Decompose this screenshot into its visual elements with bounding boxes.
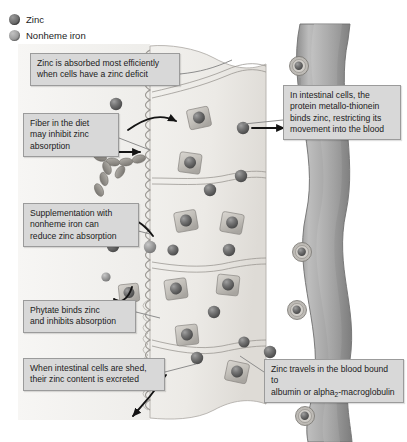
intestinal-epithelial-cells (150, 46, 266, 420)
callout-blood-transport: Zinc travels in the blood bound to album… (264, 359, 404, 403)
iron-sphere-icon (9, 30, 20, 41)
callout-cell-shedding: When intestinal cells are shed, their zi… (23, 358, 165, 391)
legend: Zinc Nonheme iron (9, 12, 86, 44)
legend-label-zinc: Zinc (26, 14, 44, 25)
legend-label-nonheme-iron: Nonheme iron (26, 30, 86, 41)
callout-metallothionein: In intestinal cells, the protein metallo… (283, 85, 401, 140)
zinc-absorption-diagram: Zinc Nonheme iron Zinc is absorbed most … (0, 0, 407, 442)
callout-zinc-deficit: Zinc is absorbed most efficiently when c… (30, 53, 180, 86)
callout-fiber-text: Fiber in the diet may inhibit zinc absor… (30, 118, 112, 152)
callout-phytate-text: Phytate binds zinc and inhibits absorpti… (30, 305, 129, 328)
callout-zinc-deficit-text: Zinc is absorbed most efficiently when c… (37, 58, 173, 81)
transport-text-post: -macroglobulin (338, 387, 394, 397)
callout-nonheme-iron-text: Supplementation with nonheme iron can re… (30, 208, 132, 242)
transport-subscript: 2 (335, 391, 339, 398)
callout-nonheme-iron: Supplementation with nonheme iron can re… (23, 203, 139, 247)
callout-cell-shedding-text: When intestinal cells are shed, their zi… (30, 363, 158, 386)
legend-item-nonheme-iron: Nonheme iron (9, 28, 86, 43)
zinc-sphere-icon (9, 14, 20, 25)
callout-metallothionein-text: In intestinal cells, the protein metallo… (290, 90, 394, 135)
callout-blood-transport-text: Zinc travels in the blood bound to album… (271, 364, 397, 398)
legend-item-zinc: Zinc (9, 12, 86, 27)
callout-fiber: Fiber in the diet may inhibit zinc absor… (23, 113, 119, 157)
callout-phytate: Phytate binds zinc and inhibits absorpti… (23, 300, 136, 333)
